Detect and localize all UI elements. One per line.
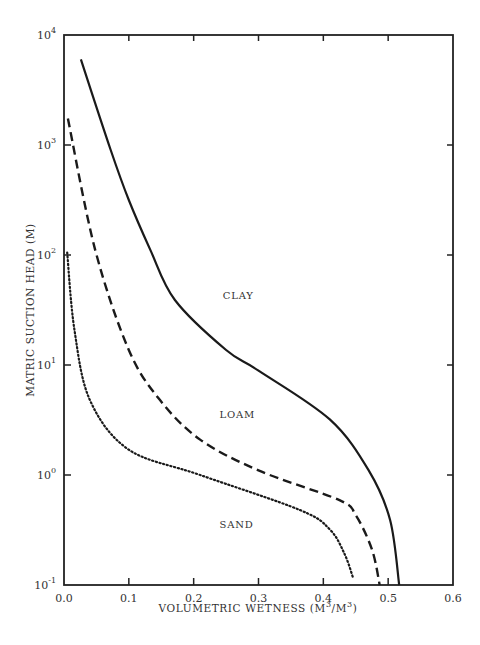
x-tick-label: 0.6 [444,592,462,605]
y-tick-label: 104 [37,26,56,42]
curves [67,59,399,585]
y-tick-label: 101 [37,356,56,372]
plot-frame [64,35,453,585]
label-loam: LOAM [220,409,256,420]
y-tick-label: 10-1 [34,576,56,592]
label-clay: CLAY [223,290,254,301]
x-tick-label: 0.0 [55,592,73,605]
y-axis-title: MATRIC SUCTION HEAD (M) [24,223,36,396]
soil-water-retention-chart: 0.00.10.20.30.40.50.6 10-110010110210310… [0,0,480,645]
label-sand: SAND [220,519,254,530]
y-tick-label: 102 [37,246,56,262]
x-axis-ticks: 0.00.10.20.30.40.50.6 [55,35,462,605]
y-tick-label: 100 [37,466,56,482]
plot-area [64,35,453,585]
curve-loam [68,119,380,586]
x-axis-title: VOLUMETRIC WETNESS (M3/M3) [157,600,357,614]
y-tick-label: 103 [37,136,56,152]
series-labels: CLAYLOAMSAND [220,290,256,530]
x-tick-label: 0.5 [379,592,397,605]
x-tick-label: 0.1 [120,592,138,605]
